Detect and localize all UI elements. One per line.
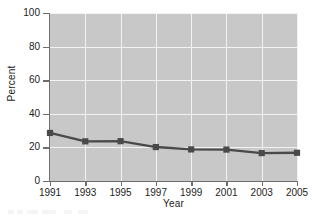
y-tick-label: 20 xyxy=(0,142,40,152)
x-tick-mark xyxy=(156,181,157,186)
y-tick-label: 40 xyxy=(0,109,40,119)
x-axis-title: Year xyxy=(50,198,297,209)
gridline-vertical xyxy=(226,13,227,181)
gridline-horizontal xyxy=(50,114,297,115)
x-tick-mark xyxy=(191,181,192,186)
x-tick-label: 2005 xyxy=(277,187,312,198)
gridline-horizontal xyxy=(50,47,297,48)
gridline-horizontal xyxy=(50,13,297,14)
x-tick-label: 1995 xyxy=(101,187,141,198)
y-tick-mark xyxy=(43,114,49,115)
y-tick-label: 80 xyxy=(0,42,40,52)
x-tick-mark xyxy=(121,181,122,186)
y-tick-label: 0 xyxy=(0,176,40,186)
y-tick-mark xyxy=(43,181,49,182)
y-tick-mark xyxy=(43,147,49,148)
x-tick-label: 1991 xyxy=(30,187,70,198)
x-tick-label: 1993 xyxy=(65,187,105,198)
gridline-horizontal xyxy=(50,147,297,148)
x-tick-mark xyxy=(262,181,263,186)
gridline-vertical xyxy=(156,13,157,181)
x-tick-mark xyxy=(297,181,298,186)
y-tick-mark xyxy=(43,47,49,48)
x-tick-mark xyxy=(85,181,86,186)
x-tick-label: 2001 xyxy=(206,187,246,198)
x-tick-mark xyxy=(226,181,227,186)
chart-container: Percent 020406080100 1991199319951997199… xyxy=(0,0,312,218)
x-tick-label: 1997 xyxy=(136,187,176,198)
gridline-vertical xyxy=(191,13,192,181)
gridline-vertical xyxy=(85,13,86,181)
gridline-vertical xyxy=(262,13,263,181)
x-tick-label: 2003 xyxy=(242,187,282,198)
y-axis-line xyxy=(49,13,50,182)
page-artifact-smudge xyxy=(8,210,128,214)
y-tick-label: 60 xyxy=(0,75,40,85)
gridline-horizontal xyxy=(50,80,297,81)
x-tick-mark xyxy=(50,181,51,186)
y-tick-mark xyxy=(43,80,49,81)
plot-area xyxy=(50,13,297,181)
gridline-vertical xyxy=(297,13,298,181)
gridline-vertical xyxy=(121,13,122,181)
y-tick-label: 100 xyxy=(0,8,40,18)
y-tick-mark xyxy=(43,13,49,14)
x-tick-label: 1999 xyxy=(171,187,211,198)
